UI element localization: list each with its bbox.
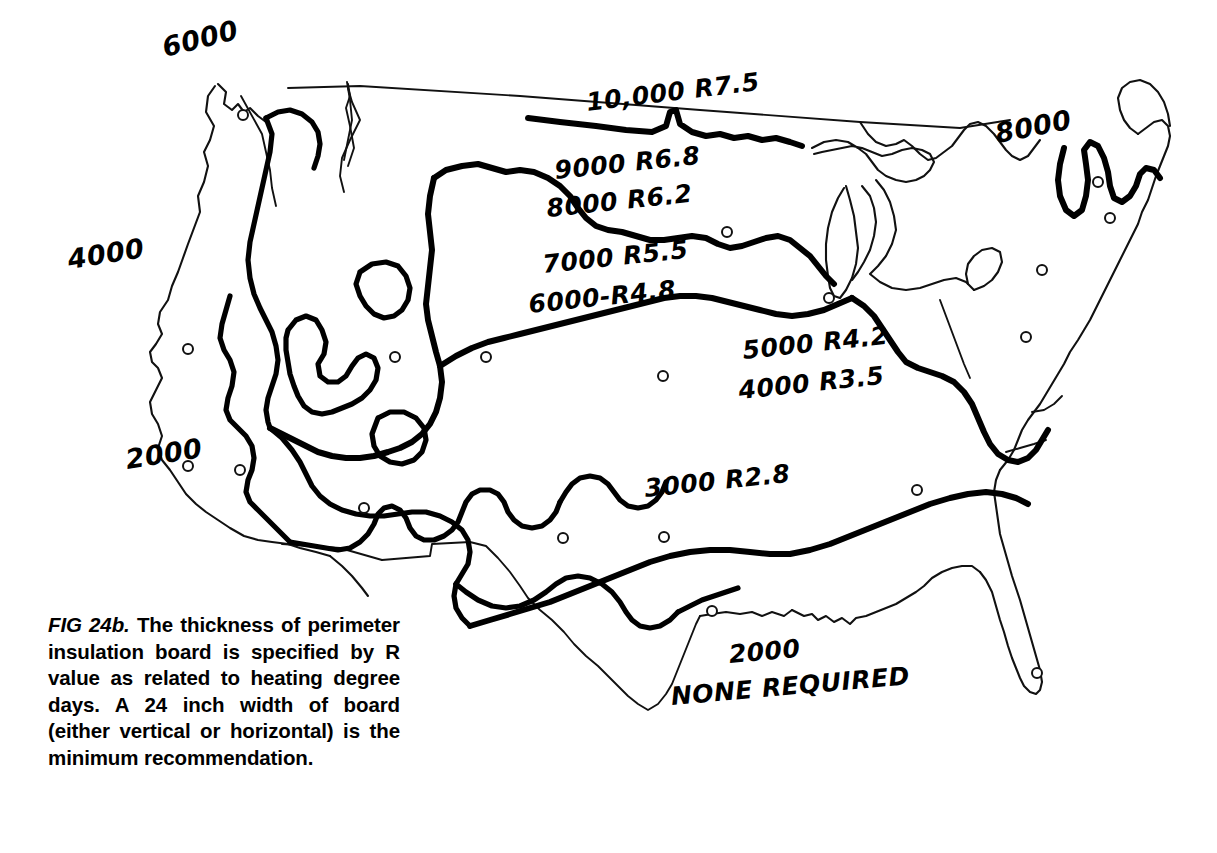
california-gulf-line bbox=[330, 556, 368, 596]
city-dot-portland-me bbox=[1093, 177, 1103, 187]
contour-southwest-arc bbox=[290, 490, 560, 550]
figure-caption-text: The thickness of perimeter insulation bo… bbox=[48, 613, 400, 769]
city-dot-houston bbox=[659, 532, 669, 542]
florida-outline bbox=[980, 470, 1042, 694]
zone-label-2000: 2000 bbox=[728, 636, 802, 667]
contour-rockies-blob bbox=[356, 262, 410, 318]
city-dot-detroit bbox=[722, 227, 732, 237]
city-dot-washington bbox=[1021, 332, 1031, 342]
city-dot-neworleans bbox=[707, 606, 717, 616]
city-dot-newyork bbox=[1037, 265, 1047, 275]
new-england-outline bbox=[1118, 80, 1170, 134]
contour-4000-south-sweep bbox=[270, 366, 442, 458]
figure-caption: FIG 24b. The thickness of perimeter insu… bbox=[48, 612, 400, 771]
contour-great-basin-blob bbox=[286, 316, 378, 414]
city-dot-phoenix bbox=[359, 503, 369, 513]
city-dot-dallas bbox=[558, 533, 568, 543]
contour-west-cascade-sierra bbox=[248, 118, 278, 428]
city-dot-atlanta bbox=[912, 485, 922, 495]
figure-root: 6000 4000 2000 8000 10,000 R7.5 9000 R6.… bbox=[0, 0, 1217, 853]
city-dot-saltlake bbox=[390, 352, 400, 362]
lake-ontario-outline bbox=[966, 248, 1002, 290]
contour-west-upper-link bbox=[266, 110, 320, 168]
city-dot-chicago bbox=[824, 293, 834, 303]
city-dot-boston bbox=[1105, 213, 1115, 223]
city-dot-kansascity bbox=[658, 371, 668, 381]
state-line-appalachian bbox=[940, 300, 970, 378]
contour-west-coastal-range bbox=[220, 296, 290, 542]
lake-superior-outline bbox=[812, 140, 934, 182]
city-dot-denver bbox=[481, 352, 491, 362]
city-dot-seattle bbox=[238, 110, 248, 120]
contour-upper-midwest-west bbox=[426, 178, 440, 366]
west-coast-outline bbox=[150, 86, 330, 556]
lake-huron-erie-outline bbox=[870, 180, 974, 290]
figure-number: FIG 24b. bbox=[48, 613, 130, 636]
city-dot-miami bbox=[1032, 668, 1042, 678]
gulf-coast-outline bbox=[792, 566, 980, 624]
contour-3000-west bbox=[270, 428, 470, 584]
city-dot-sanfran bbox=[183, 344, 193, 354]
city-dot-sandiego bbox=[235, 465, 245, 475]
